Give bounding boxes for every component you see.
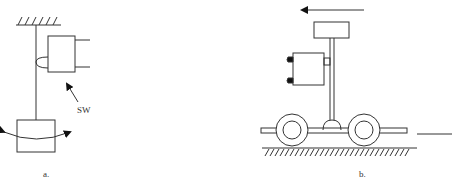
switch-mount (324, 58, 330, 65)
pendulum-mass (17, 120, 55, 152)
terminal-top-icon (287, 57, 293, 62)
panel-a (4, 17, 90, 152)
top-mass (314, 22, 349, 38)
terminal-bottom-icon (287, 78, 293, 83)
switch-label: SW (77, 105, 91, 115)
fixed-support (16, 17, 61, 25)
diagram-canvas: SW a. (0, 0, 452, 196)
ground-hatch (262, 148, 417, 156)
swing-arrow-icon (4, 132, 70, 139)
contact-bump-icon (36, 57, 48, 68)
pointer-arrow-icon (67, 84, 78, 102)
wheel-right (348, 114, 380, 146)
caption-b: b. (359, 169, 366, 179)
switch-box (48, 36, 75, 72)
chassis-right-stub (377, 128, 407, 133)
wheel-left (276, 114, 308, 146)
caption-a: a. (43, 169, 49, 179)
panel-b (261, 10, 452, 156)
switch-box-b (293, 53, 324, 85)
